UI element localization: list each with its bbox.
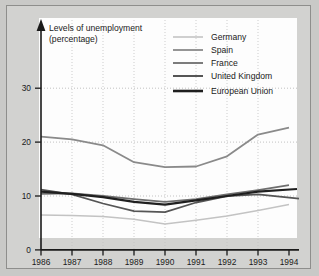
x-axis-ticks (41, 250, 289, 256)
chart-title-line-2: (percentage) (49, 34, 98, 44)
unemployment-line-chart: 0 10 20 30 1986 1987 1988 1989 1990 1991… (7, 6, 312, 270)
legend-label-united-kingdom: United Kingdom (211, 71, 272, 81)
x-tick-label-1994: 1994 (280, 257, 299, 267)
chart-title-line-1: Levels of unemployment (49, 23, 143, 33)
x-tick-label-1988: 1988 (94, 257, 113, 267)
legend-label-european-union: European Union (211, 86, 273, 96)
figure-frame: 0 10 20 30 1986 1987 1988 1989 1990 1991… (6, 5, 311, 269)
x-tick-label-1990: 1990 (156, 257, 175, 267)
x-tick-label-1993: 1993 (249, 257, 268, 267)
x-tick-label-1986: 1986 (32, 257, 51, 267)
legend-label-spain: Spain (211, 45, 233, 55)
y-tick-label-0: 0 (26, 245, 31, 255)
y-tick-label-20: 20 (22, 137, 32, 147)
legend-label-germany: Germany (211, 32, 247, 42)
y-tick-label-30: 30 (22, 83, 32, 93)
x-tick-label-1987: 1987 (63, 257, 82, 267)
y-tick-label-10: 10 (22, 191, 32, 201)
x-tick-label-1991: 1991 (187, 257, 206, 267)
x-tick-label-1992: 1992 (218, 257, 237, 267)
chart-container: 0 10 20 30 1986 1987 1988 1989 1990 1991… (7, 6, 312, 270)
legend-label-france: France (211, 58, 238, 68)
x-tick-label-1989: 1989 (125, 257, 144, 267)
